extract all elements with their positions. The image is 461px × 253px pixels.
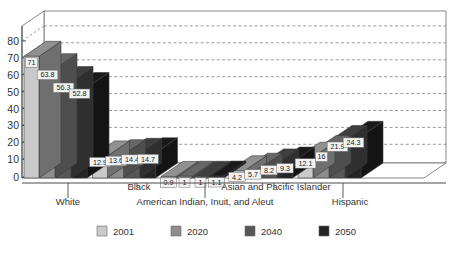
value-label-asian-2050: 9.3 (280, 164, 290, 173)
x-axis-labels: Black Asian and Pacific Islander White A… (22, 181, 446, 207)
value-label-black-2001: 12.9 (93, 158, 107, 167)
y-tick-label-40: 40 (7, 103, 19, 115)
value-label-hispanic-2001: 12.1 (299, 159, 313, 168)
chart-container: 80 70 60 50 40 30 20 10 0 7163.856.352.8… (0, 0, 461, 253)
value-label-asian-2040: 8.2 (264, 166, 274, 175)
y-tick-label-60: 60 (7, 69, 19, 81)
value-label-white-2040: 56.3 (57, 83, 71, 92)
value-label-black-2040: 14.4 (125, 155, 139, 164)
bar-face (39, 41, 61, 178)
value-label-american-2050: 1.1 (212, 178, 222, 187)
value-label-asian-2020: 5.7 (248, 170, 258, 179)
bar-face (24, 56, 39, 178)
legend-label-2040: 2040 (261, 226, 282, 237)
cat-label-asian-pacific-islander: Asian and Pacific Islander (221, 181, 330, 192)
y-tick-label-20: 20 (7, 136, 19, 148)
cat-label-american-indian-inuit-aleut: American Indian, Inuit, and Aleut (137, 196, 274, 207)
legend-label-2050: 2050 (335, 226, 356, 237)
value-label-hispanic-2050: 24.3 (347, 138, 361, 147)
legend-swatch-2001 (97, 226, 107, 236)
y-tick-label-30: 30 (7, 119, 19, 131)
legend-label-2020: 2020 (187, 226, 208, 237)
legend-swatch-2040 (245, 226, 255, 236)
value-label-hispanic-2040: 21.9 (331, 142, 345, 151)
cat-label-black: Black (127, 181, 150, 192)
value-label-black-2050: 14.7 (141, 155, 155, 164)
y-tick-label-80: 80 (7, 35, 19, 47)
legend-swatch-2050 (319, 226, 329, 236)
y-tick-label-10: 10 (7, 153, 19, 165)
chart-legend: 2001 2020 2040 2050 (97, 226, 356, 237)
value-label-white-2050: 52.8 (73, 89, 87, 98)
y-tick-label-0: 0 (13, 171, 19, 183)
value-label-american-2020: 1 (183, 178, 187, 187)
bar-chart-3d: 80 70 60 50 40 30 20 10 0 7163.856.352.8… (0, 0, 461, 253)
value-label-white-2020: 63.8 (41, 70, 55, 79)
legend-swatch-2020 (171, 226, 181, 236)
value-label-black-2020: 13.6 (109, 156, 123, 165)
legend-label-2001: 2001 (113, 226, 134, 237)
cat-label-white: White (56, 196, 80, 207)
value-label-hispanic-2020: 16 (318, 152, 326, 161)
value-label-white-2001: 71 (28, 58, 36, 67)
value-label-american-2040: 1 (199, 178, 203, 187)
y-tick-label-70: 70 (7, 52, 19, 64)
cat-label-hispanic: Hispanic (332, 196, 369, 207)
y-tick-label-50: 50 (7, 86, 19, 98)
